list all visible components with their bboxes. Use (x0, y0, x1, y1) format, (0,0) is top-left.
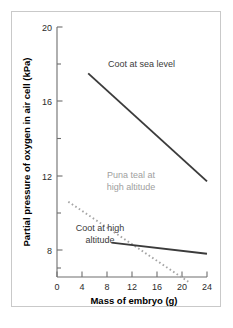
y-tick-label-16: 16 (42, 97, 52, 107)
annotation-coot-sea-level: Coot at sea level (108, 59, 175, 69)
y-tick-label-20: 20 (42, 23, 52, 33)
x-tick-label-24: 24 (202, 282, 212, 292)
x-axis-ticks (57, 272, 207, 278)
y-tick-label-12: 12 (42, 172, 52, 182)
annotation-puna-teal-line2: high altitude (107, 182, 156, 192)
x-tick-label-4: 4 (79, 282, 84, 292)
annotation-puna-teal-line1: Puna teal at (107, 170, 156, 180)
annotation-coot-high-altitude-line2: altitude (85, 235, 114, 245)
x-tick-label-8: 8 (104, 282, 109, 292)
x-tick-label-16: 16 (152, 282, 162, 292)
x-tick-label-0: 0 (54, 282, 59, 292)
y-tick-label-8: 8 (47, 246, 52, 256)
chart-figure: 20 16 12 8 0 4 8 12 16 20 24 Mass of emb… (0, 0, 233, 328)
series-line-coot-high-altitude (111, 243, 207, 254)
chart-plot-area: 20 16 12 8 0 4 8 12 16 20 24 Mass of emb… (0, 0, 233, 328)
series-line-coot-sea-level (88, 73, 207, 181)
x-tick-label-12: 12 (127, 282, 137, 292)
annotation-coot-high-altitude-line1: Coot at high (76, 223, 125, 233)
x-tick-label-20: 20 (177, 282, 187, 292)
y-axis-title: Partial pressure of oxygen in air cell (… (21, 57, 32, 246)
y-axis-minor-ticks (57, 64, 61, 268)
x-axis-title: Mass of embryo (g) (90, 295, 177, 306)
